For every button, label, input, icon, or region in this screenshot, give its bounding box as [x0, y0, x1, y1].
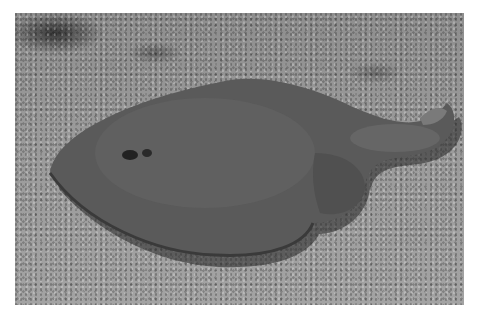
photo: [15, 13, 464, 305]
ray-illustration: [15, 13, 464, 305]
